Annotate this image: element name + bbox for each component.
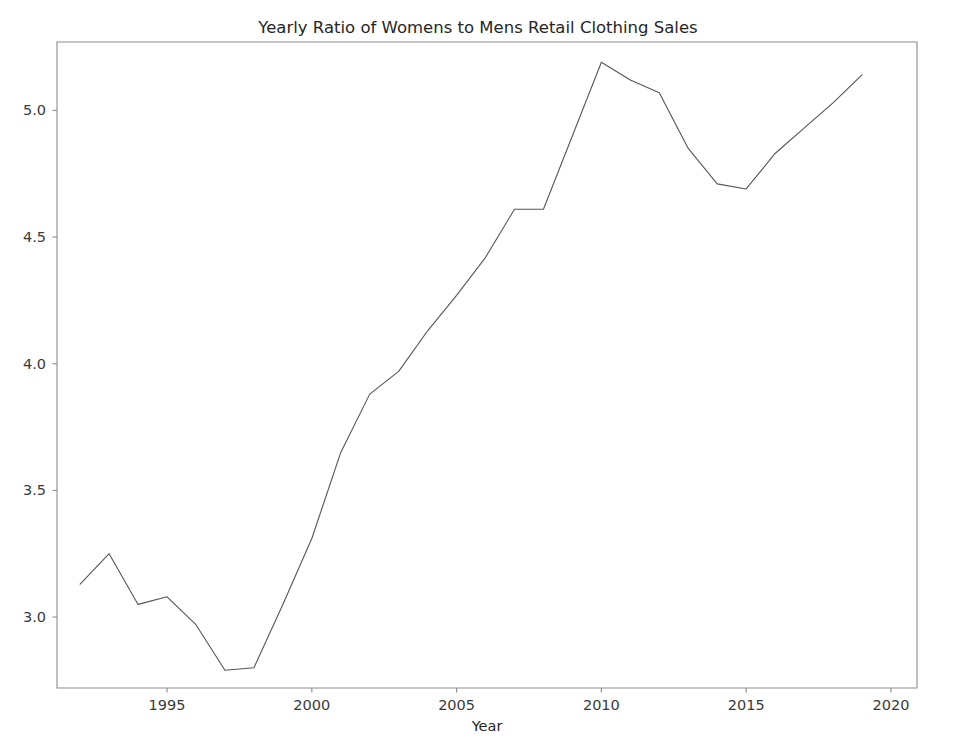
x-tick-label: 2005 [438, 697, 475, 713]
x-tick-labels: 199520002005201020152020 [149, 697, 910, 713]
x-tick-label: 2015 [728, 697, 765, 713]
x-tick-label: 2020 [872, 697, 909, 713]
y-tick-label: 5.0 [23, 102, 46, 118]
x-axis-label: Year [471, 718, 503, 734]
y-tick-label: 4.0 [23, 356, 46, 372]
y-tick-label: 4.5 [23, 229, 46, 245]
y-tick-marks [53, 110, 58, 617]
y-tick-labels: 3.03.54.04.55.0 [23, 102, 46, 625]
x-tick-label: 1995 [149, 697, 186, 713]
y-tick-label: 3.0 [23, 609, 46, 625]
x-tick-marks [167, 688, 891, 693]
x-tick-label: 2010 [583, 697, 620, 713]
plot-area-background [57, 42, 917, 688]
y-tick-label: 3.5 [23, 482, 46, 498]
line-chart: Yearly Ratio of Womens to Mens Retail Cl… [0, 0, 956, 756]
x-tick-label: 2000 [293, 697, 330, 713]
figure-canvas: Yearly Ratio of Womens to Mens Retail Cl… [0, 0, 956, 756]
chart-title: Yearly Ratio of Womens to Mens Retail Cl… [257, 18, 697, 37]
